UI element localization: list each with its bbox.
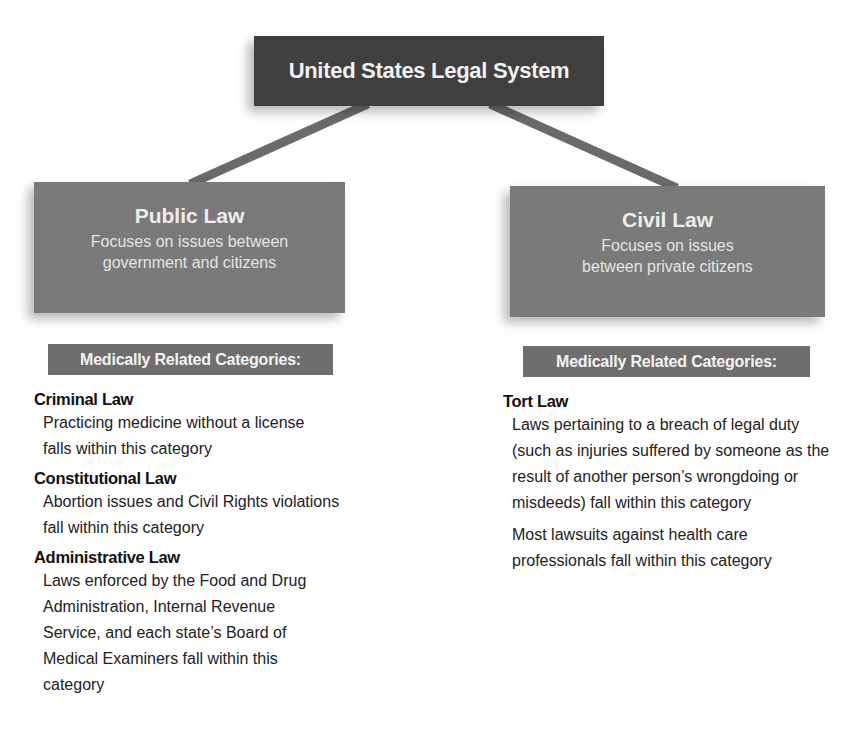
root-node: United States Legal System: [254, 36, 604, 106]
civil-law-description: Focuses on issues between private citize…: [510, 235, 825, 277]
civil-law-title: Civil Law: [510, 207, 825, 233]
category-description-tort-law-lawsuits: Most lawsuits against health care profes…: [503, 522, 802, 574]
category-description-criminal-law: Practicing medicine without a license fa…: [34, 410, 323, 462]
connector-root-to-civil-law: [490, 104, 677, 188]
public-law-title: Public Law: [34, 203, 345, 229]
category-description-constitutional-law: Abortion issues and Civil Rights violati…: [34, 489, 343, 541]
root-title: United States Legal System: [289, 58, 570, 84]
public-law-description: Focuses on issues between government and…: [34, 231, 345, 273]
public-law-categories: Criminal Law Practicing medicine without…: [34, 388, 354, 703]
connector-root-to-public-law: [190, 104, 368, 184]
civil-categories-label: Medically Related Categories:: [523, 346, 810, 377]
category-description-administrative-law: Laws enforced by the Food and Drug Admin…: [34, 568, 333, 698]
category-title-tort-law: Tort Law: [503, 390, 838, 412]
category-title-criminal-law: Criminal Law: [34, 388, 354, 410]
category-title-administrative-law: Administrative Law: [34, 546, 354, 568]
civil-law-categories: Tort Law Laws pertaining to a breach of …: [503, 390, 838, 579]
public-law-node: Public Law Focuses on issues between gov…: [34, 182, 345, 313]
civil-law-node: Civil Law Focuses on issues between priv…: [510, 186, 825, 317]
category-title-constitutional-law: Constitutional Law: [34, 467, 354, 489]
category-description-tort-law: Laws pertaining to a breach of legal dut…: [503, 412, 830, 516]
public-categories-label: Medically Related Categories:: [48, 344, 333, 375]
